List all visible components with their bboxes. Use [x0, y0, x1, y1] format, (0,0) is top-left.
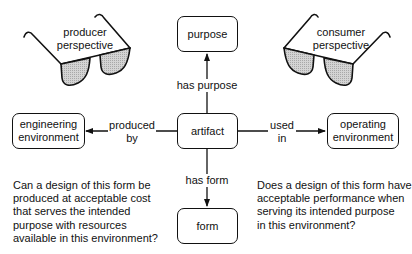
node-purpose-label: purpose — [188, 28, 228, 41]
produced-by-line1: produced — [108, 119, 156, 132]
node-operating-line2: environment — [333, 131, 394, 144]
consumer-question: Does a design of this form have acceptab… — [257, 179, 412, 232]
consumer-perspective-line2: perspective — [306, 39, 376, 52]
node-engineering-environment: engineering environment — [12, 113, 85, 149]
producer-question-line: that serves the intended — [13, 205, 173, 218]
producer-perspective-line2: perspective — [50, 39, 120, 52]
has-form-text: has form — [186, 174, 229, 186]
consumer-question-line: Does a design of this form have — [257, 179, 412, 192]
produced-by-line2: by — [108, 132, 156, 145]
node-operating-environment: operating environment — [327, 113, 399, 149]
producer-question-line: purpose with resources — [13, 219, 173, 232]
producer-question-line: produced at acceptable cost — [13, 192, 173, 205]
producer-question-line: available in this environment? — [13, 232, 173, 245]
node-engineering-line2: environment — [18, 131, 79, 144]
producer-question: Can a design of this form be produced at… — [13, 179, 173, 245]
used-in-line1: used — [268, 119, 296, 132]
node-form: form — [177, 208, 238, 244]
used-in-line2: in — [268, 132, 296, 145]
consumer-question-line: serving its intended purpose — [257, 205, 412, 218]
producer-perspective-line1: producer — [50, 26, 120, 39]
consumer-perspective-line1: consumer — [306, 26, 376, 39]
node-artifact: artifact — [177, 113, 238, 149]
consumer-question-line: in this environment? — [257, 219, 412, 232]
has-purpose-text: has purpose — [177, 79, 238, 91]
edge-has-form-label: has form — [180, 174, 234, 187]
producer-perspective-label: producer perspective — [50, 26, 120, 52]
node-purpose: purpose — [177, 16, 238, 52]
edge-produced-by-label: produced by — [108, 119, 156, 145]
edge-has-purpose-label: has purpose — [172, 79, 242, 92]
node-operating-line1: operating — [333, 118, 394, 131]
node-form-label: form — [197, 220, 219, 233]
consumer-perspective-label: consumer perspective — [306, 26, 376, 52]
edge-used-in-label: used in — [268, 119, 296, 145]
consumer-question-line: acceptable performance when — [257, 192, 412, 205]
node-artifact-label: artifact — [191, 125, 224, 138]
node-engineering-line1: engineering — [18, 118, 79, 131]
producer-question-line: Can a design of this form be — [13, 179, 173, 192]
